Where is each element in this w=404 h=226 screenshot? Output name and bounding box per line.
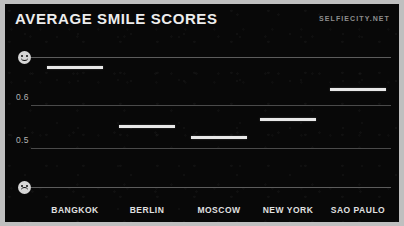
bar-sao-paulo[interactable] <box>330 88 386 91</box>
gridline-top <box>31 57 391 58</box>
bar-moscow[interactable] <box>191 136 247 139</box>
bar-bangkok[interactable] <box>47 66 103 69</box>
x-label-sao-paulo: SAO PAULO <box>331 205 385 215</box>
sad-face-icon <box>18 181 31 194</box>
x-label-moscow: MOSCOW <box>197 205 240 215</box>
x-label-berlin: BERLIN <box>130 205 165 215</box>
chart-panel: AVERAGE SMILE SCORES SELFIECITY.NET 0.6 … <box>5 4 399 222</box>
x-label-new-york: NEW YORK <box>263 205 314 215</box>
chart-frame: AVERAGE SMILE SCORES SELFIECITY.NET 0.6 … <box>0 0 404 226</box>
gridline-bottom <box>31 187 391 188</box>
bar-berlin[interactable] <box>119 125 175 128</box>
happy-face-icon <box>18 51 31 64</box>
brand-watermark: SELFIECITY.NET <box>319 15 390 22</box>
y-tick-0-6: 0.6 <box>16 92 29 102</box>
gridline-0-5 <box>31 148 391 149</box>
x-label-bangkok: BANGKOK <box>51 205 98 215</box>
bar-new-york[interactable] <box>260 118 316 121</box>
y-tick-0-5: 0.5 <box>16 135 29 145</box>
gridline-0-6 <box>31 105 391 106</box>
page-title: AVERAGE SMILE SCORES <box>15 10 218 27</box>
